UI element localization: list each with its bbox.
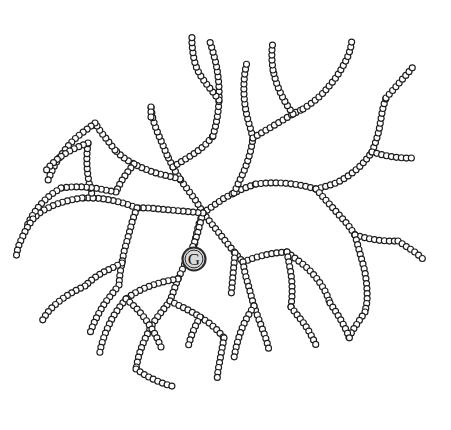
- glucose-bead: [409, 65, 415, 71]
- glycogenin-core-group: G: [183, 248, 206, 271]
- glucose-bead: [88, 329, 94, 335]
- glucose-bead: [97, 349, 103, 355]
- glycogen-diagram: G: [0, 0, 451, 430]
- glucose-bead: [349, 39, 355, 45]
- glucose-bead: [228, 290, 234, 296]
- glucose-bead: [214, 374, 220, 380]
- glucose-bead: [408, 155, 414, 161]
- glucose-bead: [40, 317, 46, 323]
- glucose-bead: [313, 341, 319, 347]
- glucose-bead: [269, 42, 275, 48]
- glucose-bead: [244, 61, 250, 67]
- branch-chain: [148, 104, 154, 120]
- glucose-bead: [186, 342, 192, 348]
- glucose-bead: [45, 177, 51, 183]
- glycogen-figure: G: [0, 0, 451, 430]
- glucose-bead: [158, 344, 164, 350]
- glucose-bead: [169, 383, 175, 389]
- diagram-background: [0, 0, 451, 430]
- glucose-bead: [148, 114, 154, 120]
- glucose-bead: [189, 35, 195, 41]
- glucose-bead: [346, 335, 352, 341]
- glycogenin-core-label: G: [188, 250, 200, 269]
- glucose-bead: [231, 354, 237, 360]
- glucose-bead: [419, 255, 425, 261]
- glucose-bead: [14, 252, 20, 258]
- glucose-bead: [266, 345, 272, 351]
- glucose-bead: [207, 40, 213, 46]
- glucose-bead: [44, 167, 50, 173]
